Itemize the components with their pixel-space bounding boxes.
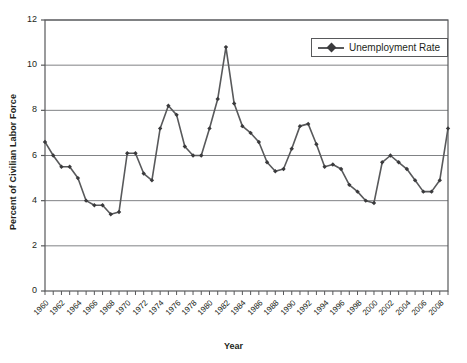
data-point [232, 101, 236, 105]
data-point [322, 165, 326, 169]
legend-label-unemployment-rate: Unemployment Rate [349, 43, 447, 53]
data-point [117, 210, 121, 214]
data-point [216, 97, 220, 101]
data-point [314, 142, 318, 146]
legend: Unemployment Rate [311, 38, 448, 57]
data-point [207, 126, 211, 130]
data-point [224, 45, 228, 49]
unemployment-rate-chart: Percent of Civilian Labor Force Year 024… [0, 0, 467, 363]
data-point [298, 124, 302, 128]
data-point [290, 147, 294, 151]
data-point [158, 126, 162, 130]
data-point [446, 126, 450, 130]
data-point [281, 167, 285, 171]
series-line-0 [45, 47, 448, 214]
data-point [306, 122, 310, 126]
data-point [133, 151, 137, 155]
legend-line-marker-icon [318, 42, 344, 54]
data-point [372, 201, 376, 205]
data-point [199, 153, 203, 157]
data-point [125, 151, 129, 155]
